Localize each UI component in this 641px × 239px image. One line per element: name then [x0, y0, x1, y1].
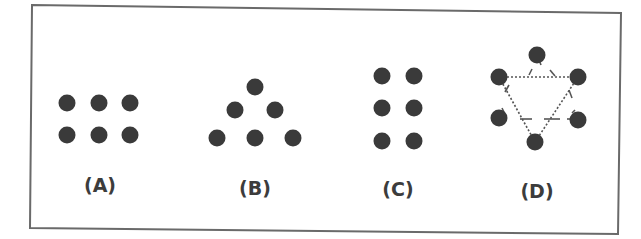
dot: [59, 127, 76, 144]
dashed-lines: [502, 60, 578, 119]
dot: [247, 79, 264, 96]
panel-a: [59, 95, 139, 144]
dot: [527, 134, 544, 151]
label-b: (B): [239, 177, 271, 199]
panel-d: [491, 47, 587, 151]
dot: [529, 47, 546, 64]
panel-b: [209, 79, 302, 147]
dot: [570, 69, 587, 86]
dot: [91, 127, 108, 144]
dot: [374, 68, 391, 85]
dot: [406, 68, 423, 85]
dot: [122, 95, 139, 112]
dot: [285, 130, 302, 147]
dot: [406, 133, 423, 150]
dot: [406, 100, 423, 117]
dot: [491, 110, 508, 127]
dot: [374, 133, 391, 150]
dot: [91, 95, 108, 112]
dot: [491, 69, 508, 86]
dot: [227, 102, 244, 119]
dot: [59, 95, 76, 112]
dot: [267, 102, 284, 119]
label-a: (A): [84, 174, 116, 196]
dot: [122, 127, 139, 144]
panel-c: [374, 68, 423, 150]
dotted-triangle: [499, 77, 578, 142]
dot: [374, 100, 391, 117]
label-d: (D): [520, 180, 553, 202]
dot: [570, 112, 587, 129]
panel-labels: (A) (B) (C) (D): [84, 174, 554, 202]
diagram-canvas: (A) (B) (C) (D): [0, 0, 641, 239]
dot: [209, 130, 226, 147]
dot: [247, 130, 264, 147]
label-c: (C): [382, 178, 413, 200]
